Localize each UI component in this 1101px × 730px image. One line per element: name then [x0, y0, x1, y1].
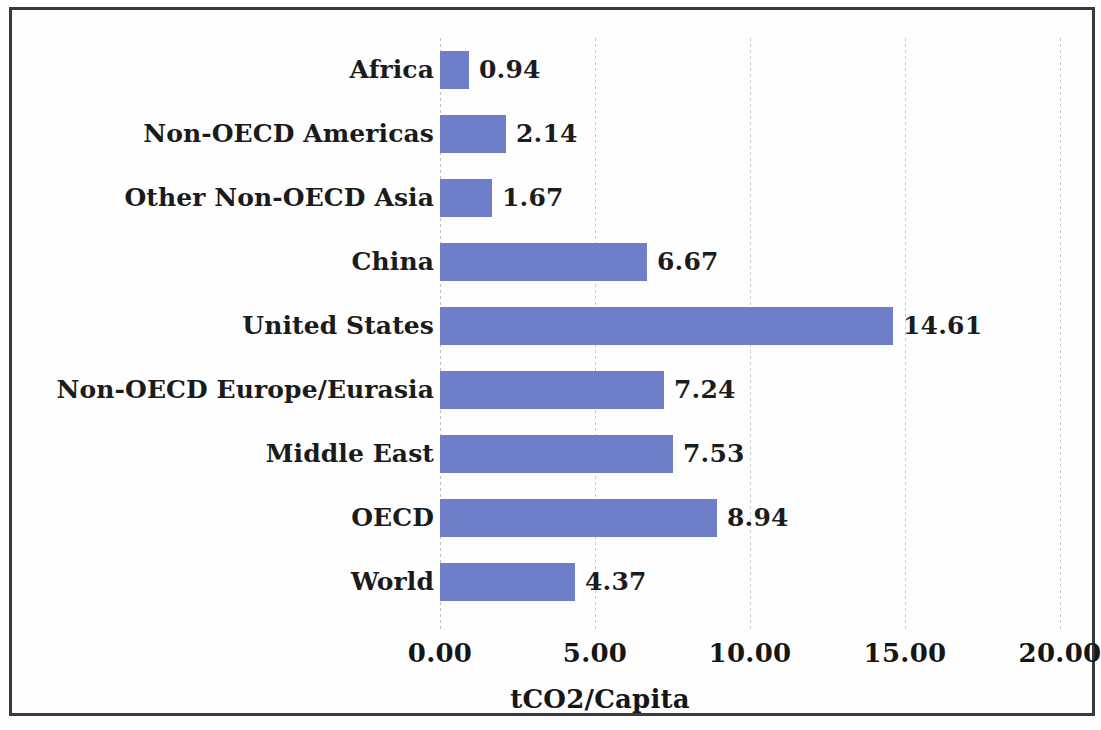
bar-row: Other Non-OECD Asia 1.67 — [440, 166, 1060, 230]
category-label-wrap: Africa — [4, 38, 434, 102]
bar-value-label: 0.94 — [479, 51, 541, 89]
category-label: Other Non-OECD Asia — [4, 166, 434, 230]
bar — [440, 499, 717, 537]
category-label-wrap: Other Non-OECD Asia — [4, 166, 434, 230]
category-label-wrap: OECD — [4, 486, 434, 550]
bar-row: World 4.37 — [440, 550, 1060, 614]
category-label-wrap: China — [4, 230, 434, 294]
chart-frame-border: Africa 0.94 Non-OECD Americas 2.14 Other… — [9, 7, 1095, 716]
bar — [440, 435, 673, 473]
x-axis-tick-labels: 0.00 5.00 10.00 15.00 20.00 — [440, 638, 1060, 678]
bar — [440, 307, 893, 345]
bar-value-label: 7.24 — [674, 371, 736, 409]
category-label: Non-OECD Americas — [4, 102, 434, 166]
category-label-wrap: United States — [4, 294, 434, 358]
bar-row: United States 14.61 — [440, 294, 1060, 358]
category-label: Africa — [4, 38, 434, 102]
bar — [440, 371, 664, 409]
bar — [440, 563, 575, 601]
category-label-wrap: World — [4, 550, 434, 614]
category-label-wrap: Middle East — [4, 422, 434, 486]
plot-area: Africa 0.94 Non-OECD Americas 2.14 Other… — [440, 38, 1060, 632]
scanned-page: Africa 0.94 Non-OECD Americas 2.14 Other… — [0, 0, 1101, 730]
x-tick-label: 15.00 — [864, 638, 947, 668]
bar-row: OECD 8.94 — [440, 486, 1060, 550]
category-label: Middle East — [4, 422, 434, 486]
bar-value-label: 1.67 — [502, 179, 564, 217]
bar-row: Non-OECD Europe/Eurasia 7.24 — [440, 358, 1060, 422]
category-label-wrap: Non-OECD Europe/Eurasia — [4, 358, 434, 422]
bar-row: Middle East 7.53 — [440, 422, 1060, 486]
bar — [440, 51, 469, 89]
category-label: World — [4, 550, 434, 614]
bar-value-label: 8.94 — [727, 499, 789, 537]
category-label: United States — [4, 294, 434, 358]
category-label: China — [4, 230, 434, 294]
bar-row: Africa 0.94 — [440, 38, 1060, 102]
category-label-wrap: Non-OECD Americas — [4, 102, 434, 166]
x-tick-label: 10.00 — [709, 638, 792, 668]
x-tick-label: 5.00 — [563, 638, 628, 668]
bar-value-label: 2.14 — [516, 115, 578, 153]
bar — [440, 243, 647, 281]
bar — [440, 115, 506, 153]
category-label: Non-OECD Europe/Eurasia — [4, 358, 434, 422]
bar-value-label: 4.37 — [585, 563, 647, 601]
bar-row: Non-OECD Americas 2.14 — [440, 102, 1060, 166]
bar — [440, 179, 492, 217]
bar-value-label: 6.67 — [657, 243, 719, 281]
bar-row: China 6.67 — [440, 230, 1060, 294]
x-axis-title: tCO2/Capita — [440, 684, 760, 714]
x-tick-label: 0.00 — [408, 638, 473, 668]
x-tick-label: 20.00 — [1019, 638, 1101, 668]
bar-value-label: 14.61 — [903, 307, 982, 345]
category-label: OECD — [4, 486, 434, 550]
gridline-20 — [1060, 38, 1061, 632]
bar-value-label: 7.53 — [683, 435, 745, 473]
